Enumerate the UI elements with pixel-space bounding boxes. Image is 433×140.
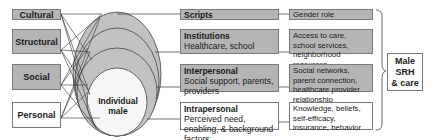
curly-brace-icon bbox=[376, 10, 386, 130]
domain-detail: Social support, parents, providers bbox=[184, 76, 275, 96]
domain-title: Intrapersonal bbox=[184, 104, 275, 114]
factor-gender-role: Gender role bbox=[289, 9, 373, 20]
center-line-2: male bbox=[108, 106, 127, 116]
factor-social-networks: Social networks, parent connection, heal… bbox=[289, 64, 373, 92]
factor-access: Access to care, school services, neighbo… bbox=[289, 29, 373, 54]
level-personal: Personal bbox=[12, 102, 61, 128]
outcome-line-3: & care bbox=[391, 78, 419, 88]
level-label: Structural bbox=[15, 37, 58, 47]
level-label: Personal bbox=[17, 110, 55, 120]
outcome-line-2: SRH bbox=[395, 67, 414, 77]
factor-text: Knowledge, beliefs, self-efficacy, insur… bbox=[293, 104, 361, 132]
level-cultural: Cultural bbox=[12, 9, 61, 20]
level-structural: Structural bbox=[12, 29, 61, 54]
outcome-male-srh-care: Male SRH & care bbox=[387, 53, 423, 91]
level-label: Cultural bbox=[19, 10, 53, 20]
outcome-line-1: Male bbox=[395, 56, 415, 66]
level-label: Social bbox=[23, 72, 50, 82]
domain-title: Scripts bbox=[184, 10, 275, 20]
ecological-model-diagram: Cultural Structural Social Personal Indi… bbox=[0, 0, 433, 140]
domain-detail: Healthcare, school bbox=[184, 41, 275, 51]
domain-intrapersonal: Intrapersonal Perceived need, enabling, … bbox=[180, 102, 279, 130]
domain-scripts: Scripts bbox=[180, 9, 279, 20]
level-social: Social bbox=[12, 64, 61, 90]
factor-connectors bbox=[279, 14, 289, 122]
domain-detail: Perceived need, enabling, & background f… bbox=[184, 114, 275, 140]
domain-institutions: Institutions Healthcare, school bbox=[180, 29, 279, 54]
domain-interpersonal: Interpersonal Social support, parents, p… bbox=[180, 64, 279, 92]
domain-title: Institutions bbox=[184, 31, 275, 41]
factor-text: Gender role bbox=[293, 10, 334, 19]
nested-ellipses bbox=[73, 12, 161, 136]
individual-male-label: Individual male bbox=[95, 96, 141, 116]
domain-title: Interpersonal bbox=[184, 66, 275, 76]
center-line-1: Individual bbox=[98, 96, 138, 106]
factor-knowledge: Knowledge, beliefs, self-efficacy, insur… bbox=[289, 102, 373, 130]
